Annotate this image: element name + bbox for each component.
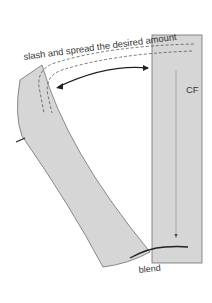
center-front-piece [152,35,202,263]
arrowhead-left-icon [56,83,63,90]
notch-mark [16,138,25,142]
blend-label: blend [138,263,161,275]
center-front-label: CF [186,84,199,95]
diagram-canvas: slash and spread the desired amount CF b… [0,0,212,303]
pattern-diagram: slash and spread the desired amount CF b… [0,0,212,303]
arrowhead-right-icon [143,65,149,71]
side-panel-piece [17,65,150,267]
spread-arrow [58,67,148,87]
